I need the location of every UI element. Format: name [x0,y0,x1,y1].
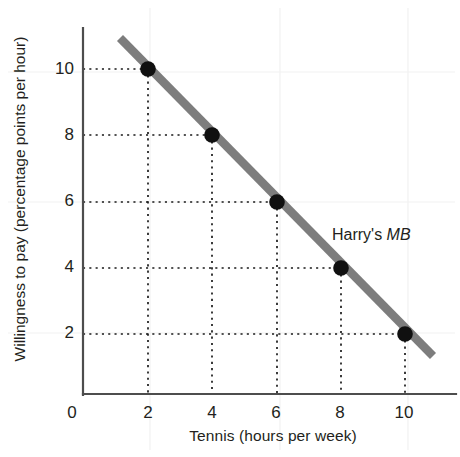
y-tick-label-2: 2 [44,323,74,343]
x-tick-label-2: 2 [133,403,163,423]
data-point [269,194,285,210]
chart-figure: Willingness to pay (percentage points pe… [0,0,460,457]
series-annotation-mb: MB [387,226,411,243]
data-point [333,260,349,276]
y-tick-label-6: 6 [44,191,74,211]
y-tick-label-4: 4 [44,257,74,277]
x-tick-label-10: 10 [389,403,419,423]
data-point [140,61,156,77]
y-tick-label-8: 8 [44,125,74,145]
data-point [397,326,413,342]
series-annotation-label: Harry's MB [332,226,411,244]
y-axis-title: Willingness to pay (percentage points pe… [11,16,29,382]
y-axis-title-wrapper: Willingness to pay (percentage points pe… [0,0,40,400]
x-axis-title: Tennis (hours per week) [0,427,460,445]
y-tick-label-10: 10 [44,59,74,79]
series-annotation-owner: Harry's [332,226,387,243]
x-tick-label-0: 0 [57,403,87,423]
x-tick-label-6: 6 [261,403,291,423]
x-tick-label-8: 8 [325,403,355,423]
data-point [204,127,220,143]
x-tick-label-4: 4 [197,403,227,423]
